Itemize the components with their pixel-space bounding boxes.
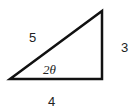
right-triangle-diagram: 5 3 4 2θ — [0, 0, 135, 111]
adjacent-side-label: 4 — [48, 94, 55, 109]
triangle-shape — [10, 11, 102, 79]
opposite-side-label: 3 — [121, 40, 128, 55]
angle-label: 2θ — [43, 62, 57, 77]
hypotenuse-label: 5 — [29, 30, 36, 45]
